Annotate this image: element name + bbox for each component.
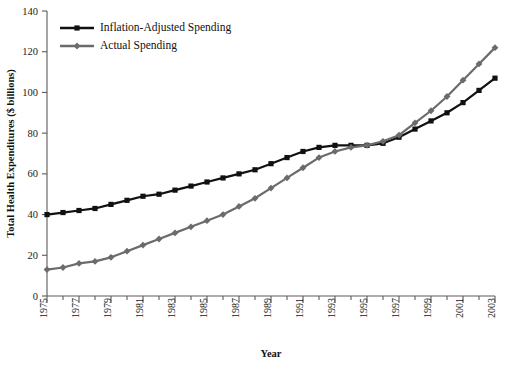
series-2-point bbox=[156, 236, 163, 243]
series-1-point bbox=[156, 192, 161, 197]
y-tick-label: 120 bbox=[22, 46, 38, 57]
x-tick-label: 2001 bbox=[454, 298, 465, 318]
y-tick-label: 80 bbox=[28, 128, 39, 139]
series-1-point bbox=[332, 143, 337, 148]
series-2-point bbox=[108, 254, 115, 261]
series-1-point bbox=[492, 76, 497, 81]
series-1-point bbox=[172, 188, 177, 193]
x-tick-label: 1995 bbox=[358, 298, 369, 318]
x-tick-label: 1991 bbox=[294, 298, 305, 318]
series-1-point bbox=[124, 198, 129, 203]
chart-container: 0204060801001201401975197719791981198319… bbox=[0, 0, 525, 377]
series-2-point bbox=[60, 264, 67, 271]
series-1-point bbox=[236, 171, 241, 176]
y-tick-label: 40 bbox=[28, 209, 39, 220]
series-1-point bbox=[188, 183, 193, 188]
series-1-point bbox=[460, 100, 465, 105]
series-1-point bbox=[204, 179, 209, 184]
y-tick-label: 20 bbox=[28, 250, 39, 261]
series-line-1 bbox=[47, 78, 495, 214]
series-2-point bbox=[92, 258, 99, 265]
series-1-point bbox=[316, 145, 321, 150]
x-tick-label: 1999 bbox=[422, 298, 433, 318]
y-tick-label: 60 bbox=[28, 168, 39, 179]
legend-marker-2 bbox=[74, 43, 81, 50]
x-axis-title: Year bbox=[261, 348, 282, 359]
y-tick-label: 100 bbox=[22, 87, 38, 98]
series-1-point bbox=[92, 206, 97, 211]
x-tick-label: 1997 bbox=[390, 298, 401, 318]
series-line-2 bbox=[47, 48, 495, 270]
x-tick-label: 1987 bbox=[230, 298, 241, 318]
series-1-point bbox=[284, 155, 289, 160]
x-tick-label: 1983 bbox=[166, 298, 177, 318]
series-1-point bbox=[108, 202, 113, 207]
x-tick-label: 1979 bbox=[102, 298, 113, 318]
series-1-point bbox=[428, 118, 433, 123]
legend-marker-1 bbox=[74, 25, 79, 30]
series-1-point bbox=[44, 212, 49, 217]
series-1-point bbox=[60, 210, 65, 215]
series-1-point bbox=[140, 194, 145, 199]
series-1-point bbox=[252, 167, 257, 172]
y-tick-label: 140 bbox=[22, 6, 38, 17]
series-1-point bbox=[412, 126, 417, 131]
series-1-point bbox=[76, 208, 81, 213]
series-2-point bbox=[332, 148, 339, 155]
series-2-point bbox=[76, 260, 83, 267]
y-axis-title: Total Health Expenditures ($ billions) bbox=[5, 69, 17, 238]
x-tick-label: 1993 bbox=[326, 298, 337, 318]
x-tick-label: 1981 bbox=[134, 298, 145, 318]
series-1-point bbox=[268, 161, 273, 166]
series-2-point bbox=[204, 217, 211, 224]
series-2-point bbox=[140, 242, 147, 249]
legend-label-2: Actual Spending bbox=[100, 39, 177, 52]
x-tick-label: 1985 bbox=[198, 298, 209, 318]
line-chart: 0204060801001201401975197719791981198319… bbox=[0, 0, 525, 377]
x-tick-label: 2003 bbox=[486, 298, 497, 318]
series-1-point bbox=[300, 149, 305, 154]
x-tick-label: 1977 bbox=[70, 298, 81, 318]
legend-label-1: Inflation-Adjusted Spending bbox=[100, 21, 232, 34]
x-tick-label: 1989 bbox=[262, 298, 273, 318]
series-2-point bbox=[188, 223, 195, 230]
x-tick-label: 1975 bbox=[38, 298, 49, 318]
series-1-point bbox=[444, 110, 449, 115]
series-1-point bbox=[476, 88, 481, 93]
series-2-point bbox=[172, 229, 179, 236]
series-1-point bbox=[220, 175, 225, 180]
series-2-point bbox=[124, 248, 131, 255]
series-2-point bbox=[44, 266, 51, 273]
